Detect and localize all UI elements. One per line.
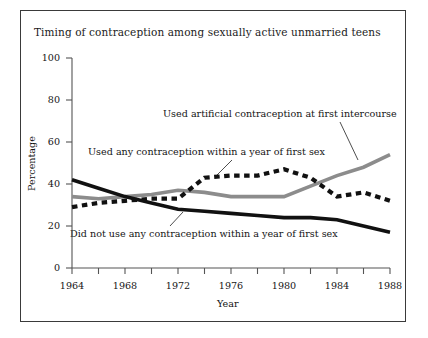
y-tick-label: 100 [34,52,60,63]
data-series-layer [72,155,390,233]
x-tick-label: 1984 [317,280,357,291]
y-axis-ticks [66,58,72,268]
x-tick-label: 1964 [52,280,92,291]
x-axis-ticks [72,268,390,274]
x-tick-label: 1988 [370,280,410,291]
series-line-solid-black [72,180,390,233]
y-tick-label: 60 [34,136,60,147]
x-tick-label: 1972 [158,280,198,291]
y-tick-label: 40 [34,178,60,189]
x-tick-label: 1976 [211,280,251,291]
y-tick-label: 20 [34,220,60,231]
y-tick-label: 0 [34,262,60,273]
y-tick-label: 80 [34,94,60,105]
x-tick-label: 1980 [264,280,304,291]
axis-lines [72,58,390,268]
figure-container: Timing of contraception among sexually a… [0,0,428,338]
x-tick-label: 1968 [105,280,145,291]
